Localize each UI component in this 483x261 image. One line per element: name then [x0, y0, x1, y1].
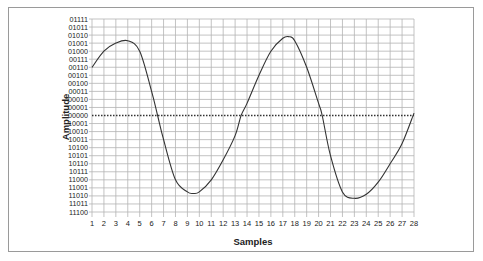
x-tick-label: 1	[90, 219, 94, 228]
x-tick-label: 10	[195, 219, 203, 228]
x-tick-label: 24	[362, 219, 370, 228]
x-tick-label: 9	[185, 219, 189, 228]
x-tick-label: 20	[314, 219, 322, 228]
x-tick-label: 27	[398, 219, 406, 228]
x-tick-label: 28	[410, 219, 418, 228]
x-tick-label: 3	[114, 219, 118, 228]
waveform-line	[92, 36, 414, 198]
x-tick-label: 21	[326, 219, 334, 228]
y-tick-label: 11100	[69, 208, 88, 217]
x-axis-title: Samples	[233, 236, 272, 247]
waveform-chart: 0111101011010100100101000001110011000101…	[0, 0, 483, 261]
x-tick-label: 19	[302, 219, 310, 228]
x-tick-label: 13	[231, 219, 239, 228]
x-tick-label: 11	[207, 219, 215, 228]
x-tick-label: 25	[374, 219, 382, 228]
x-tick-label: 26	[386, 219, 394, 228]
x-tick-label: 17	[279, 219, 287, 228]
x-tick-label: 22	[338, 219, 346, 228]
x-tick-label: 6	[150, 219, 154, 228]
x-tick-label: 12	[219, 219, 227, 228]
x-tick-label: 15	[255, 219, 263, 228]
x-tick-label: 4	[126, 219, 130, 228]
x-tick-label: 5	[138, 219, 142, 228]
x-tick-label: 18	[291, 219, 299, 228]
x-tick-label: 8	[173, 219, 177, 228]
y-axis-tick-labels: 0111101011010100100101000001110011000101…	[68, 15, 88, 217]
grid	[89, 19, 414, 217]
x-tick-label: 16	[267, 219, 275, 228]
x-tick-label: 14	[243, 219, 251, 228]
y-axis-title: Amplitude	[60, 94, 71, 140]
x-tick-label: 2	[102, 219, 106, 228]
x-tick-label: 23	[350, 219, 358, 228]
x-tick-label: 7	[161, 219, 165, 228]
x-axis-tick-labels: 1234567891011121314151617181920212223242…	[90, 219, 418, 228]
